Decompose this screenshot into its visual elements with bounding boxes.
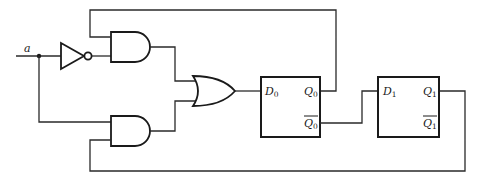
- and-bottom-output-wire: [150, 101, 197, 131]
- not-gate: [61, 43, 84, 69]
- and-top-output-wire: [150, 47, 197, 81]
- input-a-label: a: [24, 42, 31, 55]
- and-gate-bottom: [111, 116, 150, 146]
- q0bar-to-d1-wire: [320, 91, 378, 123]
- or-gate: [193, 76, 235, 106]
- not-gate-bubble: [84, 52, 91, 59]
- input-a-branch-wire: [39, 56, 111, 122]
- and-gate-top: [111, 32, 150, 62]
- circuit-diagram: a D0 Q0 Q0 D1 Q1 Q1: [0, 0, 481, 180]
